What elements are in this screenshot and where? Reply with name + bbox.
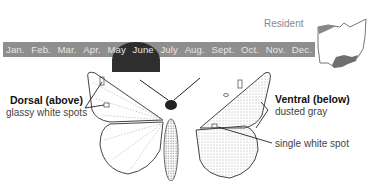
ventral-title: Ventral (below) [275, 93, 350, 105]
ventral-spot-note: single white spot [275, 138, 349, 149]
dorsal-title: Dorsal (above) [10, 94, 83, 106]
butterfly-illustration [0, 0, 377, 181]
dorsal-note: glassy white spots [6, 107, 87, 118]
ventral-note: dusted gray [275, 106, 327, 117]
